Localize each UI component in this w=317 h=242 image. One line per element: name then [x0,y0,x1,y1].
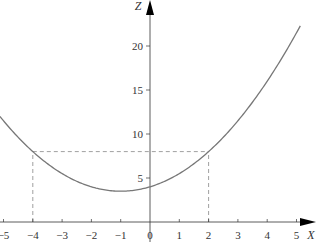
x-tick-label: 1 [177,229,183,241]
x-axis-arrow-icon [300,218,316,226]
y-tick-label: 20 [132,40,144,52]
x-tick-label: −3 [56,229,68,241]
y-tick-label: 5 [138,172,144,184]
y-tick-label: 10 [132,128,144,140]
y-axis-label: Z [135,0,142,13]
axes: −5−4−3−2−10123455101520XZ [0,0,316,242]
x-tick-label: 5 [294,229,300,241]
x-tick-label: −4 [27,229,39,241]
y-tick-label: 15 [132,84,144,96]
x-tick-label: 3 [235,229,241,241]
x-tick-label: 0 [147,229,153,241]
parabola-chart: −5−4−3−2−10123455101520XZ [0,0,317,242]
x-tick-label: −5 [0,229,10,241]
x-tick-label: −1 [115,229,127,241]
x-axis-label: X [306,228,315,242]
x-tick-label: −2 [86,229,98,241]
y-axis-arrow-icon [146,0,154,15]
dashed-guides [33,152,209,222]
x-tick-label: 2 [206,229,212,241]
x-tick-label: 4 [264,229,270,241]
